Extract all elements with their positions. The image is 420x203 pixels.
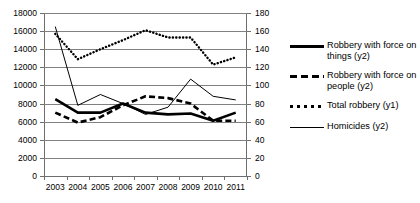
x-axis-tick-mark (44, 176, 45, 180)
y-axis-right-tick-label: 100 (255, 81, 269, 90)
x-axis-tick-mark (224, 176, 225, 180)
x-axis-tick-mark (134, 176, 135, 180)
x-axis-tick-mark (202, 176, 203, 180)
y-axis-right-tick-label: 120 (255, 63, 269, 72)
x-axis-tick-mark (179, 176, 180, 180)
y-axis-left-tick-label: 10000 (0, 81, 37, 90)
y-axis-right-tick-label: 20 (255, 154, 264, 163)
legend-item-label: Robbery with force onthings (y2) (327, 40, 416, 61)
legend-item-label: Total robbery (y1) (327, 100, 398, 111)
legend-swatch-icon (290, 71, 324, 82)
y-axis-right-tick-label: 0 (255, 172, 260, 181)
data-series-layer (44, 13, 247, 176)
x-axis-tick-mark (89, 176, 90, 180)
legend-item-label: Homicides (y2) (327, 121, 388, 132)
legend-swatch-icon (290, 122, 324, 133)
y-axis-left-tick-label: 8000 (0, 100, 37, 109)
series-line-1 (55, 96, 235, 122)
legend-item[interactable]: Homicides (y2) (290, 121, 418, 133)
y-axis-right-tick-mark (247, 31, 251, 32)
legend-item[interactable]: Robbery with force onthings (y2) (290, 40, 418, 61)
y-axis-left-tick-label: 2000 (0, 154, 37, 163)
x-axis-tick-mark (247, 176, 248, 180)
y-axis-right-tick-label: 160 (255, 27, 269, 36)
chart-legend: Robbery with force onthings (y2)Robbery … (290, 40, 418, 142)
y-axis-right-tick-mark (247, 158, 251, 159)
legend-item-label-line2: things (y2) (327, 51, 416, 62)
x-axis-tick-mark (112, 176, 113, 180)
chart-container: 0200040006000800010000120001400016000180… (0, 0, 420, 203)
x-axis-tick-label: 2011 (220, 183, 252, 192)
y-axis-right-tick-mark (247, 140, 251, 141)
y-axis-right-tick-label: 80 (255, 100, 264, 109)
y-axis-left-tick-label: 14000 (0, 45, 37, 54)
axis-baseline (44, 176, 247, 177)
y-axis-right-tick-mark (247, 67, 251, 68)
y-axis-right-tick-mark (247, 85, 251, 86)
y-axis-right-tick-mark (247, 104, 251, 105)
y-axis-right-tick-label: 140 (255, 45, 269, 54)
y-axis-right-tick-mark (247, 49, 251, 50)
y-axis-left-tick-label: 0 (0, 172, 37, 181)
y-axis-left-tick-label: 12000 (0, 63, 37, 72)
y-axis-right-tick-label: 40 (255, 136, 264, 145)
y-axis-right-tick-mark (247, 13, 251, 14)
series-line-2 (55, 30, 235, 64)
legend-swatch-icon (290, 41, 324, 52)
y-axis-right-tick-label: 60 (255, 118, 264, 127)
y-axis-left-tick-label: 6000 (0, 118, 37, 127)
y-axis-right-tick-mark (247, 122, 251, 123)
series-line-3 (55, 27, 235, 115)
y-axis-left-tick-label: 16000 (0, 27, 37, 36)
legend-item[interactable]: Total robbery (y1) (290, 100, 418, 112)
legend-swatch-icon (290, 101, 324, 112)
legend-item[interactable]: Robbery with force onpeople (y2) (290, 70, 418, 91)
y-axis-left-tick-label: 4000 (0, 136, 37, 145)
legend-item-label-line2: people (y2) (327, 81, 416, 92)
x-axis-tick-mark (67, 176, 68, 180)
x-axis-tick-mark (157, 176, 158, 180)
legend-item-label: Robbery with force onpeople (y2) (327, 70, 416, 91)
y-axis-left-tick-label: 18000 (0, 9, 37, 18)
y-axis-right-tick-label: 180 (255, 9, 269, 18)
